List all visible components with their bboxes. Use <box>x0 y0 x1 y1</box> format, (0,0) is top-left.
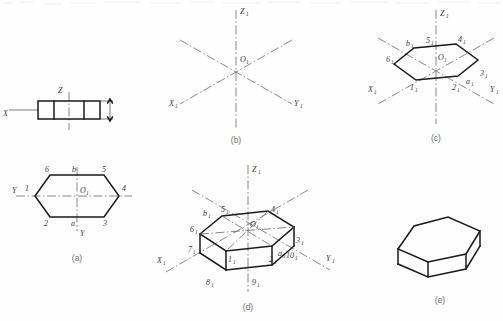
label-d-2: 2 <box>269 255 273 264</box>
prism-construction-diagonal-1 <box>200 227 294 234</box>
prism-construction-diagonal-2 <box>222 216 272 246</box>
label-c-z: Z <box>440 9 445 18</box>
finished-prism-top-face <box>398 217 480 262</box>
label-a-3: 3 <box>102 219 107 228</box>
label-c-6: 6 <box>386 55 390 64</box>
label-c-z-sub: 1 <box>446 13 449 19</box>
label-a-4: 4 <box>122 184 126 193</box>
drawing-canvas: Z X 1 2 3 4 5 6 a b O 1 Y Y (a) Z 1 <box>0 0 503 321</box>
label-c-y-sub: 1 <box>496 89 499 95</box>
label-d-7-sub: 1 <box>193 249 196 255</box>
label-d-5: 5 <box>221 205 225 214</box>
label-d-midpoint-b: b <box>203 209 207 218</box>
label-c-4-sub: 1 <box>463 39 466 45</box>
label-d-midpoint-a-sub: 1 <box>283 253 286 259</box>
label-c-x-sub: 1 <box>374 89 377 95</box>
label-d-x: X <box>156 256 163 265</box>
label-d-8-sub: 1 <box>211 282 214 288</box>
panel-e-finished: (e) <box>398 217 480 305</box>
label-c-4: 4 <box>458 35 462 44</box>
label-c-1: 1 <box>410 83 414 92</box>
label-front-x: X <box>2 109 9 118</box>
label-d-1: 1 <box>228 255 232 264</box>
label-a-y-down: Y <box>80 229 86 238</box>
label-d-4-sub: 1 <box>276 209 279 215</box>
label-c-x: X <box>367 85 374 94</box>
label-c-midpoint-b: b <box>406 39 410 48</box>
front-view <box>9 92 113 130</box>
label-d-6-sub: 1 <box>195 229 198 235</box>
label-d-4: 4 <box>271 205 275 214</box>
label-d-3: 3 <box>295 236 300 245</box>
caption-a: (a) <box>72 253 83 263</box>
label-c-6-sub: 1 <box>391 59 394 65</box>
label-d-1-sub: 1 <box>233 259 236 265</box>
label-b-x: X <box>168 99 175 108</box>
panel-b-axes: Z 1 X 1 Y 1 O 1 (b) <box>168 7 303 145</box>
label-c-midpoint-a-sub: 1 <box>471 81 474 87</box>
label-a-y-left: Y <box>12 186 18 195</box>
label-a-midpoint-b: b <box>72 165 76 174</box>
label-a-2: 2 <box>44 219 48 228</box>
label-a-midpoint-a: a <box>71 219 75 228</box>
label-c-3-sub: 1 <box>485 73 488 79</box>
label-d-10-sub: 1 <box>295 255 298 261</box>
label-d-10: 10 <box>286 251 294 260</box>
label-d-x-sub: 1 <box>163 260 166 266</box>
label-d-z: Z <box>252 165 257 174</box>
axis-y1-d <box>192 190 330 270</box>
label-c-5-sub: 1 <box>431 40 434 46</box>
label-c-5: 5 <box>426 36 430 45</box>
label-c-origin-sub: 1 <box>444 57 447 63</box>
label-d-2-sub: 1 <box>274 259 277 265</box>
scan-artifact-top <box>2 2 500 4</box>
label-d-y-sub: 1 <box>332 258 335 264</box>
label-d-8: 8 <box>206 278 210 287</box>
prism-top-face <box>200 211 294 251</box>
label-d-5-sub: 1 <box>226 209 229 215</box>
panel-d-prism: Z 1 X 1 Y 1 O 1 6 1 7 1 1 1 8 1 9 1 2 1 … <box>156 165 335 312</box>
engineering-drawing-page: Z X 1 2 3 4 5 6 a b O 1 Y Y (a) Z 1 <box>0 0 503 321</box>
label-d-3-sub: 1 <box>301 240 304 246</box>
panel-a-orthographic: Z X 1 2 3 4 5 6 a b O 1 Y Y (a) <box>2 86 132 263</box>
label-a-origin-sub: 1 <box>86 190 89 196</box>
label-d-9-sub: 1 <box>257 282 260 288</box>
label-b-y-sub: 1 <box>300 103 303 109</box>
label-b-origin-sub: 1 <box>246 59 249 65</box>
label-c-1-sub: 1 <box>415 87 418 93</box>
prism-construction-diagonal-3 <box>226 211 268 251</box>
label-d-6: 6 <box>190 225 194 234</box>
label-c-3: 3 <box>479 69 484 78</box>
label-b-z-sub: 1 <box>246 11 249 17</box>
label-a-6: 6 <box>45 165 49 174</box>
label-c-2: 2 <box>452 83 456 92</box>
label-d-9: 9 <box>252 278 256 287</box>
panel-c-hexagon: 6 1 1 1 2 1 3 1 4 1 5 1 b 1 a 1 Z 1 X 1 … <box>367 9 499 143</box>
label-a-5: 5 <box>102 165 106 174</box>
label-c-midpoint-a: a <box>466 77 470 86</box>
label-c-2-sub: 1 <box>457 87 460 93</box>
label-d-midpoint-b-sub: 1 <box>208 213 211 219</box>
caption-c: (c) <box>431 133 441 143</box>
label-front-z: Z <box>58 86 63 95</box>
label-c-midpoint-b-sub: 1 <box>411 43 414 49</box>
caption-d: (d) <box>243 302 254 312</box>
label-d-origin-sub: 1 <box>256 224 259 230</box>
caption-e: (e) <box>435 295 446 305</box>
label-d-midpoint-a: a <box>278 249 282 258</box>
label-b-z: Z <box>240 7 245 16</box>
label-a-1: 1 <box>25 184 29 193</box>
label-d-z-sub: 1 <box>258 169 261 175</box>
label-b-x-sub: 1 <box>175 103 178 109</box>
caption-b: (b) <box>231 135 242 145</box>
